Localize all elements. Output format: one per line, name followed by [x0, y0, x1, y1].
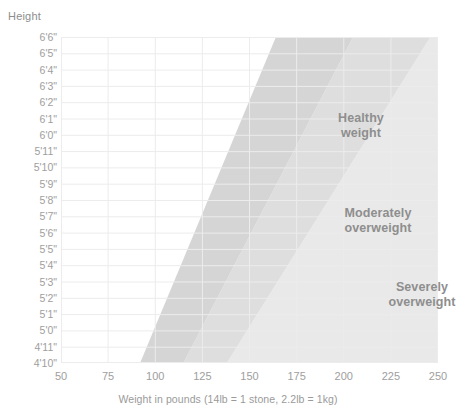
- x-axis-tick-label: 200: [335, 370, 353, 382]
- y-axis-title: Height: [8, 10, 41, 22]
- band-label-healthy-weight: Healthy weight: [309, 111, 413, 141]
- y-axis-tick-label: 6'4": [40, 64, 57, 75]
- y-axis-tick-labels: 6'6"6'5"6'4"6'3"6'2"6'1"6'0"5'11"5'10"5'…: [0, 37, 57, 363]
- band-label-moderately-overweight: Moderately overweight: [319, 206, 437, 236]
- y-axis-tick-label: 5'2": [40, 293, 57, 304]
- y-axis-tick-label: 5'10": [34, 162, 57, 173]
- y-axis-tick-label: 4'10": [34, 358, 57, 369]
- x-axis-tick-label: 100: [146, 370, 164, 382]
- y-axis-tick-label: 5'11": [35, 146, 57, 157]
- y-axis-tick-label: 5'4": [40, 260, 57, 271]
- y-axis-tick-label: 6'2": [40, 97, 57, 108]
- y-axis-tick-label: 5'6": [40, 227, 57, 238]
- x-axis-tick-labels: 5075100125150175200225250: [61, 370, 438, 386]
- x-axis-tick-label: 125: [193, 370, 211, 382]
- y-axis-tick-label: 5'0": [40, 325, 57, 336]
- y-axis-tick-label: 5'1": [40, 309, 57, 320]
- y-axis-tick-label: 5'7": [40, 211, 57, 222]
- y-axis-tick-label: 4'11": [35, 341, 57, 352]
- x-axis-caption: Weight in pounds (14lb = 1 stone, 2.2lb …: [0, 393, 456, 405]
- x-axis-tick-label: 250: [429, 370, 447, 382]
- y-axis-tick-label: 6'5": [40, 48, 57, 59]
- plot-area: Healthy weight Moderately overweight Sev…: [61, 37, 438, 363]
- x-axis-tick-label: 150: [240, 370, 258, 382]
- x-axis-tick-label: 50: [55, 370, 67, 382]
- y-axis-tick-label: 6'6": [40, 32, 57, 43]
- y-axis-tick-label: 5'8": [40, 195, 57, 206]
- x-axis-tick-label: 75: [102, 370, 114, 382]
- band-label-severely-overweight: Severely overweight: [367, 280, 456, 310]
- x-axis-tick-label: 175: [287, 370, 305, 382]
- x-axis-tick-label: 225: [382, 370, 400, 382]
- y-axis-tick-label: 6'0": [40, 130, 57, 141]
- bmi-height-weight-chart: Height: [0, 0, 456, 416]
- plot-svg: [61, 37, 438, 363]
- y-axis-tick-label: 5'3": [40, 276, 57, 287]
- y-axis-tick-label: 6'3": [40, 81, 57, 92]
- y-axis-tick-label: 5'9": [40, 178, 57, 189]
- y-axis-tick-label: 5'5": [40, 244, 57, 255]
- y-axis-tick-label: 6'1": [40, 113, 57, 124]
